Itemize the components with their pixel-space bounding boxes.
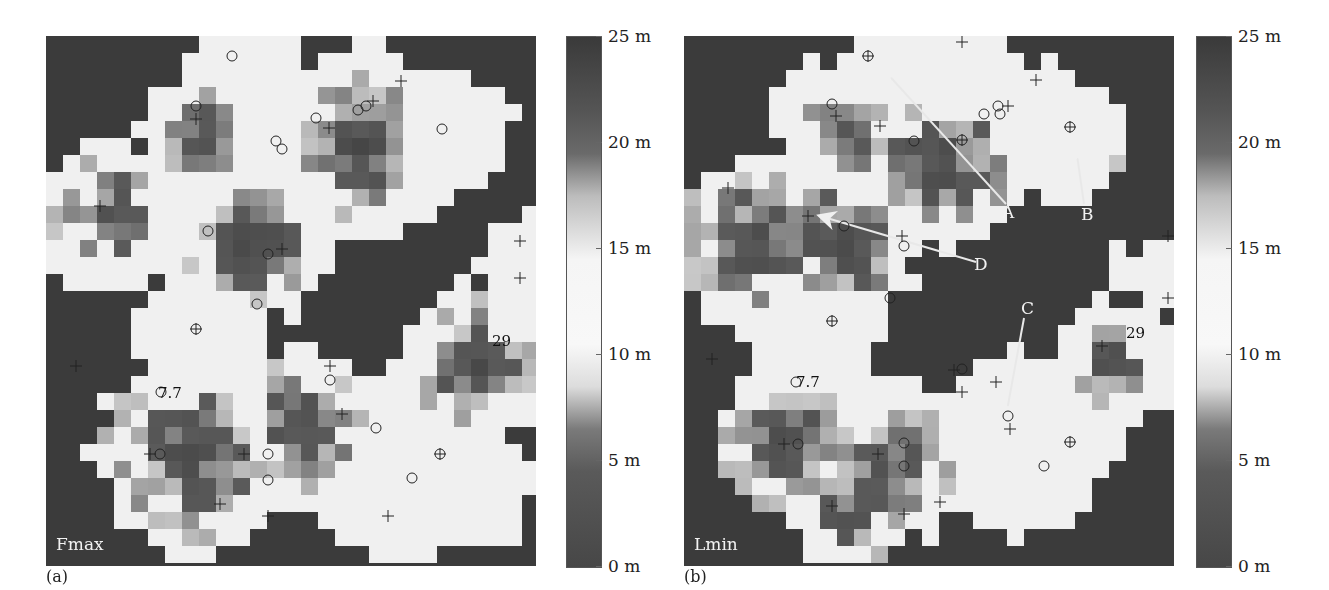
colorbar-tick <box>1226 566 1232 567</box>
arrow-label-b: B <box>1081 204 1094 224</box>
colorbar-tick <box>596 248 602 249</box>
colorbar-tick-label: 10 m <box>608 344 651 364</box>
colorbar-tick <box>596 36 602 37</box>
panel-label-a: (a) <box>46 567 68 586</box>
colorbar-tick <box>1226 36 1232 37</box>
tree-markers-overlay <box>46 36 536 566</box>
value-annotation: 7.7 <box>796 373 820 391</box>
colorbar-b <box>1196 36 1232 568</box>
colorbar-tick <box>1226 142 1232 143</box>
colorbar-tick <box>1226 248 1232 249</box>
colorbar-tick-label: 0 m <box>1238 556 1270 576</box>
colorbar-tick <box>596 460 602 461</box>
colorbar-tick-label: 0 m <box>608 556 640 576</box>
tree-markers-overlay <box>684 36 1174 566</box>
colorbar-tick-label: 5 m <box>1238 450 1270 470</box>
arrow-label-d: D <box>974 254 988 274</box>
colorbar-tick-label: 25 m <box>1238 26 1281 46</box>
value-annotation: 29 <box>1126 324 1145 342</box>
map-panel-lmin: A B C D 7.7 29 Lmin <box>684 36 1174 566</box>
map-panel-fmax: 7.7 29 Fmax <box>46 36 536 566</box>
map-label: Fmax <box>56 534 104 554</box>
colorbar-tick <box>596 354 602 355</box>
colorbar-tick-label: 15 m <box>1238 238 1281 258</box>
colorbar-tick <box>1226 460 1232 461</box>
colorbar-tick <box>596 142 602 143</box>
value-annotation: 29 <box>492 332 511 350</box>
map-label: Lmin <box>694 534 738 554</box>
colorbar-tick-label: 5 m <box>608 450 640 470</box>
value-annotation: 7.7 <box>158 384 182 402</box>
colorbar-tick <box>1226 354 1232 355</box>
colorbar-tick-label: 20 m <box>608 132 651 152</box>
arrow-label-c: C <box>1021 298 1034 318</box>
colorbar-tick-label: 25 m <box>608 26 651 46</box>
colorbar-tick-label: 15 m <box>608 238 651 258</box>
panel-label-b: (b) <box>684 567 707 586</box>
colorbar-tick-label: 20 m <box>1238 132 1281 152</box>
arrow-label-a: A <box>1002 202 1014 222</box>
colorbar-tick-label: 10 m <box>1238 344 1281 364</box>
colorbar-tick <box>596 566 602 567</box>
colorbar-a <box>566 36 602 568</box>
